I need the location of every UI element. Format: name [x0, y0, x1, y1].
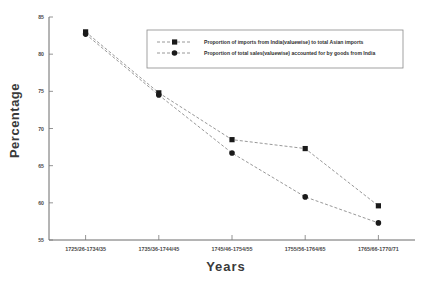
data-point-circle	[376, 220, 382, 226]
x-tick-label: 1755/56-1764/65	[285, 246, 326, 252]
legend-marker-circle	[172, 50, 178, 56]
legend-box	[147, 30, 403, 68]
y-tick-label: 70	[38, 126, 44, 132]
legend-label: Proportion of imports from India(valuewi…	[204, 39, 364, 45]
data-point-circle	[83, 31, 89, 37]
legend-marker-square	[172, 39, 177, 44]
x-tick-label: 1765/66-1770/71	[358, 246, 399, 252]
y-tick-label: 80	[38, 51, 44, 57]
data-point-circle	[302, 194, 308, 200]
y-tick-label: 55	[38, 237, 44, 243]
y-axis-title-wrapper: Percentage	[2, 0, 28, 240]
data-point-square	[229, 137, 234, 142]
y-tick-label: 75	[38, 88, 44, 94]
x-tick-label: 1745/46-1754/55	[212, 246, 253, 252]
chart-legend: Proportion of imports from India(valuewi…	[147, 30, 403, 68]
x-axis-ticks: 1725/26-1734/351735/36-1744/451745/46-17…	[65, 235, 399, 252]
legend-label: Proportion of total sales(valuewise) acc…	[204, 50, 375, 56]
x-tick-label: 1735/36-1744/45	[138, 246, 179, 252]
chart-container: Percentage 55606570758085 1725/26-1734/3…	[0, 0, 422, 282]
data-point-circle	[156, 92, 162, 98]
y-tick-label: 85	[38, 14, 44, 20]
x-tick-label: 1725/26-1734/35	[65, 246, 106, 252]
data-point-square	[303, 146, 308, 151]
y-tick-label: 65	[38, 163, 44, 169]
data-point-square	[376, 203, 381, 208]
x-axis-title: Years	[176, 259, 246, 274]
y-axis-title: Percentage	[8, 82, 23, 157]
y-tick-label: 60	[38, 200, 44, 206]
y-axis-ticks: 55606570758085	[38, 14, 53, 243]
line-chart-plot: 55606570758085 1725/26-1734/351735/36-17…	[0, 0, 422, 282]
x-axis-title-wrapper: Years	[0, 259, 422, 274]
data-point-circle	[229, 150, 235, 156]
